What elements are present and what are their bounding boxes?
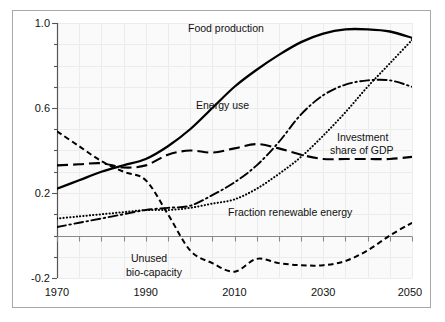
fraction-renewable-label: Fraction renewable energy	[228, 206, 353, 218]
y-tick-label-2: 0.6	[35, 102, 50, 114]
unused-biocapacity-label-line1: Unused	[131, 252, 167, 264]
unused-biocapacity-label-line2: bio-capacity	[126, 266, 183, 278]
x-tick-label-5: 2050	[398, 286, 422, 298]
chart-svg: 1.0 0.6 0.2 -0.2 1970 1990 2010 2030 205…	[0, 0, 445, 322]
x-tick-label-4: 2030	[311, 286, 335, 298]
x-tick-label-1: 1970	[45, 286, 69, 298]
plot-area-wrapper: 1.0 0.6 0.2 -0.2 1970 1990 2010 2030 205…	[0, 0, 445, 322]
investment-label-line2: share of GDP	[330, 144, 394, 156]
chart-figure: 1.0 0.6 0.2 -0.2 1970 1990 2010 2030 205…	[0, 0, 445, 322]
y-tick-label-3: 0.2	[35, 187, 50, 199]
x-tick-label-2: 1990	[134, 286, 158, 298]
y-tick-label-1: 1.0	[35, 17, 50, 29]
x-tick-label-3: 2010	[222, 286, 246, 298]
energy-use-label: Energy use	[196, 99, 249, 111]
investment-label-line1: Investment	[337, 131, 388, 143]
y-tick-label-4: -0.2	[31, 272, 50, 284]
food-production-label: Food production	[188, 22, 264, 34]
y-axis-ticks	[52, 24, 57, 279]
